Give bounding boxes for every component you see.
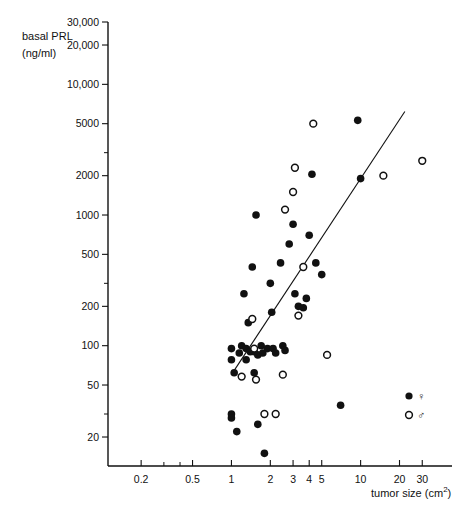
- x-tick-label-2: 2: [267, 473, 273, 485]
- data-point: [308, 170, 316, 178]
- y-tick-label-20: 20: [87, 431, 99, 443]
- data-point: [354, 117, 362, 125]
- x-tick-label-4: 4: [306, 473, 312, 485]
- y-axis: 205010020050010002000500010,00020,00030,…: [67, 16, 108, 466]
- data-point: [291, 290, 299, 298]
- data-point: [230, 369, 238, 377]
- data-point: [310, 120, 317, 127]
- y-tick-label-1000: 1000: [76, 209, 100, 221]
- data-point: [295, 312, 302, 319]
- data-point: [292, 164, 299, 171]
- y-tick-label-5000: 5000: [76, 117, 100, 129]
- data-point: [312, 259, 320, 267]
- data-point: [235, 349, 243, 357]
- legend-marker-female: [405, 392, 412, 399]
- x-axis-label: tumor size (cm2): [371, 485, 451, 499]
- data-point: [267, 280, 275, 288]
- data-point: [238, 373, 245, 380]
- legend-label-male: ♂: [417, 409, 425, 421]
- data-point: [380, 172, 387, 179]
- data-point: [282, 206, 289, 213]
- x-axis: 0.20.512345102030: [108, 460, 452, 485]
- data-point: [299, 304, 307, 312]
- data-point: [261, 411, 268, 418]
- x-tick-label-30: 30: [416, 473, 428, 485]
- data-point: [261, 450, 269, 458]
- legend-marker-male: [406, 412, 413, 419]
- y-tick-label-100: 100: [81, 339, 99, 351]
- x-tick-label-3: 3: [290, 473, 296, 485]
- data-point: [242, 356, 250, 364]
- y-axis-ticks: [102, 22, 108, 437]
- y-tick-label-50: 50: [87, 379, 99, 391]
- plot-canvas: 205010020050010002000500010,00020,00030,…: [0, 0, 459, 508]
- y-axis-label-line1: basal PRL: [22, 30, 73, 42]
- data-point: [324, 352, 331, 359]
- data-point: [318, 271, 326, 279]
- x-axis-label-main: tumor size (cm: [371, 487, 443, 499]
- data-point: [268, 309, 276, 317]
- data-point: [249, 316, 256, 323]
- data-point: [303, 295, 311, 303]
- y-tick-label-10000: 10,000: [67, 78, 99, 90]
- data-point: [248, 263, 256, 271]
- y-tick-label-500: 500: [81, 248, 99, 260]
- data-point: [228, 414, 236, 422]
- data-point: [250, 369, 258, 377]
- data-point: [300, 264, 307, 271]
- data-point: [305, 231, 313, 239]
- x-tick-label-5: 5: [319, 473, 325, 485]
- data-point: [419, 157, 426, 164]
- x-tick-label-0.2: 0.2: [134, 473, 149, 485]
- x-tick-label-10: 10: [355, 473, 367, 485]
- y-tick-label-30000: 30,000: [67, 16, 99, 28]
- scatter-plot-figure: 205010020050010002000500010,00020,00030,…: [0, 0, 459, 508]
- y-tick-label-2000: 2000: [76, 169, 100, 181]
- data-point: [228, 356, 236, 364]
- regression-line: [231, 111, 404, 374]
- data-point: [233, 428, 241, 436]
- y-tick-label-200: 200: [81, 300, 99, 312]
- data-point: [281, 347, 289, 355]
- data-point: [285, 240, 293, 248]
- data-point: [279, 371, 286, 378]
- data-point: [290, 189, 297, 196]
- y-axis-label-line2: (ng/ml): [22, 47, 56, 59]
- x-tick-label-20: 20: [394, 473, 406, 485]
- x-tick-label-1: 1: [229, 473, 235, 485]
- data-point: [254, 421, 262, 429]
- data-point: [251, 345, 258, 352]
- data-point: [252, 211, 260, 219]
- legend: ♀ ♂: [405, 390, 425, 421]
- data-series-male: [238, 120, 425, 417]
- x-tick-label-0.5: 0.5: [185, 473, 200, 485]
- data-point: [253, 376, 260, 383]
- data-point: [337, 401, 345, 409]
- x-axis-tick-labels: 0.20.512345102030: [134, 473, 428, 485]
- x-axis-label-close: ): [448, 487, 452, 499]
- data-point: [272, 349, 280, 357]
- data-point: [240, 290, 248, 298]
- y-axis-tick-labels: 205010020050010002000500010,00020,00030,…: [67, 16, 99, 443]
- data-point: [289, 220, 297, 228]
- legend-label-female: ♀: [417, 390, 425, 402]
- data-point: [272, 411, 279, 418]
- x-axis-ticks: [141, 460, 422, 466]
- data-point: [228, 345, 236, 353]
- data-point: [277, 259, 285, 267]
- data-point: [357, 175, 365, 183]
